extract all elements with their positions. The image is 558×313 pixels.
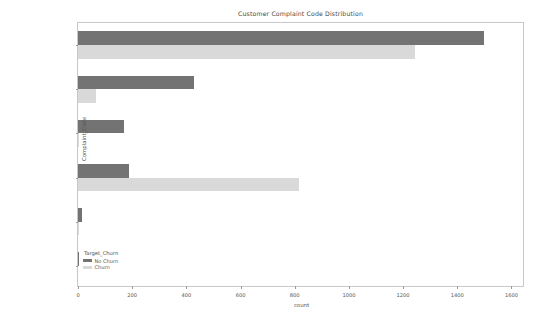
bars-layer bbox=[78, 23, 523, 286]
x-tick-mark bbox=[132, 286, 133, 289]
bar-inaccurate-sales-inf-churn bbox=[78, 222, 79, 236]
x-tick-mark bbox=[511, 286, 512, 289]
x-tick-label: 1000 bbox=[342, 292, 355, 298]
y-tick-mark bbox=[76, 89, 79, 90]
bar-billing-problem-no-churn bbox=[78, 31, 484, 45]
legend-label-churn: Churn bbox=[95, 264, 110, 270]
chart-figure: Customer Complaint Code Distribution Com… bbox=[0, 0, 558, 313]
x-tick-label: 1400 bbox=[451, 292, 464, 298]
legend-item-no-churn[interactable]: No Churn bbox=[83, 258, 118, 264]
bar-billing-problem-churn bbox=[78, 45, 415, 59]
y-tick-mark bbox=[76, 45, 79, 46]
x-tick-mark bbox=[349, 286, 350, 289]
legend-swatch-churn bbox=[83, 266, 92, 269]
y-tick-mark bbox=[76, 133, 79, 134]
x-tick-label: 800 bbox=[290, 292, 300, 298]
legend-label-no-churn: No Churn bbox=[95, 258, 119, 264]
legend-item-churn[interactable]: Churn bbox=[83, 264, 118, 270]
legend-title: Target_Churn bbox=[84, 250, 118, 256]
x-tick-mark bbox=[403, 286, 404, 289]
x-tick-mark bbox=[186, 286, 187, 289]
bar-moving-no-churn bbox=[78, 76, 194, 90]
y-tick-mark bbox=[76, 266, 79, 267]
x-tick-label: 1200 bbox=[397, 292, 410, 298]
x-tick-label: 600 bbox=[236, 292, 246, 298]
bar-pricing-no-churn bbox=[78, 252, 79, 266]
bar-check-account-churn bbox=[78, 133, 79, 147]
x-tick-label: 1600 bbox=[505, 292, 518, 298]
bar-call-quality-churn bbox=[78, 178, 299, 192]
x-tick-mark bbox=[78, 286, 79, 289]
x-tick-mark bbox=[241, 286, 242, 289]
x-tick-mark bbox=[295, 286, 296, 289]
x-tick-label: 200 bbox=[127, 292, 137, 298]
y-axis-title: Complaint_Code bbox=[81, 79, 87, 199]
y-tick-mark bbox=[76, 222, 79, 223]
legend-swatch-no-churn bbox=[83, 259, 92, 262]
x-tick-label: 400 bbox=[181, 292, 191, 298]
legend: Target_Churn No Churn Churn bbox=[81, 249, 120, 272]
bar-inaccurate-sales-inf-no-churn bbox=[78, 208, 82, 222]
chart-title: Customer Complaint Code Distribution bbox=[77, 10, 524, 17]
y-tick-mark bbox=[76, 178, 79, 179]
x-tick-mark bbox=[457, 286, 458, 289]
x-tick-label: 0 bbox=[76, 292, 79, 298]
x-axis-title: count bbox=[78, 302, 525, 308]
plot-area: Complaint_Code count Target_Churn No Chu… bbox=[77, 22, 524, 287]
